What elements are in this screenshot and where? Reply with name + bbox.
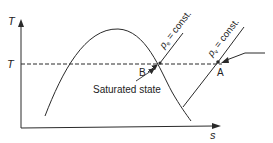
x-axis: s — [21, 123, 221, 141]
point-a-arrow-icon — [221, 57, 229, 63]
saturated-state-annotation: Saturated state — [93, 69, 161, 95]
x-axis-label: s — [210, 129, 216, 141]
point-b-arrow-icon — [148, 65, 157, 72]
pv-const-line: pv = const. — [183, 16, 244, 107]
point-a-dot — [216, 60, 220, 64]
point-a-label: A — [217, 67, 224, 78]
t-s-diagram: T s T pe = const. pv = const. B Saturate… — [0, 0, 273, 143]
y-axis-arrow-icon — [18, 19, 24, 27]
saturated-state-label: Saturated state — [93, 84, 161, 95]
pe-const-label: pe = const. — [156, 8, 194, 52]
isotherm-label: T — [7, 58, 15, 70]
point-a-pointer-line — [224, 53, 265, 61]
point-a: A — [216, 53, 265, 78]
isotherm: T — [7, 58, 222, 70]
y-axis: T — [8, 15, 24, 128]
point-b-dot — [158, 61, 161, 64]
pe-const-line: pe = const. — [156, 8, 194, 63]
y-axis-label: T — [8, 15, 16, 27]
